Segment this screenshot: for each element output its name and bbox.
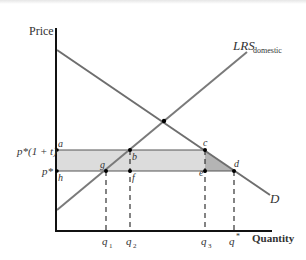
q1-subscript: 1: [109, 242, 113, 250]
label-g: g: [100, 159, 105, 170]
point-equilibrium: [162, 119, 166, 123]
point-c: [203, 148, 207, 152]
y-axis-label: Price: [29, 24, 54, 38]
tariff-rectangle-area: [57, 150, 205, 171]
label-c: c: [203, 137, 208, 148]
supply-curve-lrs: [57, 52, 247, 210]
qstar-label: q: [229, 235, 235, 247]
tariff-price-label: p*(1 + t): [16, 145, 57, 158]
demand-label: D: [269, 191, 280, 206]
x-axis-label: Quantity: [252, 232, 295, 244]
q2-label: q: [126, 235, 132, 247]
supply-label: LRS: [232, 38, 255, 53]
label-h: h: [58, 172, 63, 183]
q1-label: q: [102, 235, 108, 247]
label-a: a: [58, 138, 63, 149]
world-price-label: p*: [41, 165, 54, 177]
q2-subscript: 2: [133, 242, 137, 250]
q3-label: q: [201, 235, 207, 247]
point-d: [232, 169, 236, 173]
qstar-superscript: *: [236, 232, 240, 241]
point-e: [203, 169, 207, 173]
label-b: b: [132, 151, 137, 162]
supply-label-subscript: domestic: [253, 46, 282, 55]
q3-subscript: 3: [208, 242, 212, 250]
label-e: e: [199, 167, 204, 178]
tariff-diagram: Price Quantity LRS domestic D p*(1 + t) …: [0, 0, 306, 260]
label-d: d: [234, 158, 240, 169]
label-f: f: [132, 172, 136, 183]
